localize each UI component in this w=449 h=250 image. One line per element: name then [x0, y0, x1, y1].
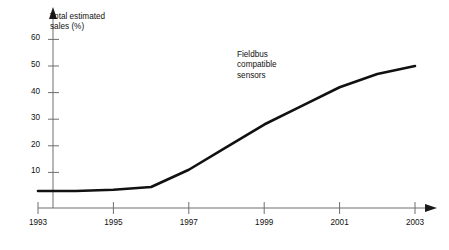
y-axis-title-line2: sales (%)	[50, 22, 84, 31]
x-axis-tick-label: 1999	[244, 218, 284, 227]
x-axis-tick-label: 2003	[395, 218, 435, 227]
series-annotation-label: Fieldbuscompatiblesensors	[237, 50, 277, 81]
data-series-line	[38, 66, 415, 191]
chart-plot-area	[0, 0, 449, 250]
y-axis-title-line1: Total estimated	[50, 12, 105, 21]
y-axis-tick-label: 60	[14, 33, 40, 42]
y-axis-tick-label: 10	[14, 166, 40, 175]
x-axis-tick-label: 1995	[93, 218, 133, 227]
x-axis-tick-label: 1997	[169, 218, 209, 227]
chart-container: Total estimatedsales (%) Fieldbuscompati…	[0, 0, 449, 250]
y-axis-tick-label: 30	[14, 113, 40, 122]
y-axis-tick-label: 40	[14, 87, 40, 96]
series-annotation-line1: Fieldbus	[237, 50, 268, 59]
series-annotation-line3: sensors	[237, 71, 266, 80]
x-axis-tick-label: 1993	[18, 218, 58, 227]
y-axis-title: Total estimatedsales (%)	[50, 12, 105, 33]
y-axis-tick-label: 20	[14, 140, 40, 149]
y-axis-tick-label: 50	[14, 60, 40, 69]
x-axis-tick-label: 2001	[320, 218, 360, 227]
series-annotation-line2: compatible	[237, 60, 277, 69]
x-axis-arrow-icon	[425, 204, 437, 212]
